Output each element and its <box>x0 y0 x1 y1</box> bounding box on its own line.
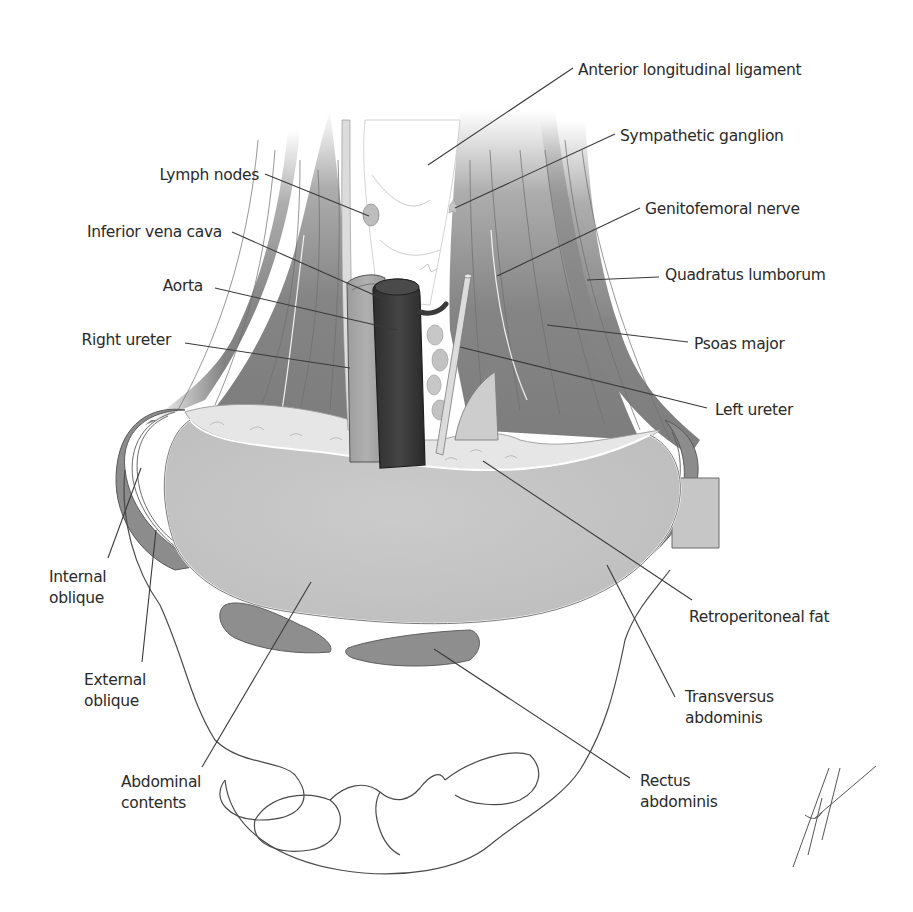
label-transversus-abdominis: Transversus <box>684 688 774 706</box>
label-external-oblique: External <box>84 671 146 689</box>
label-abdominal-contents: Abdominal <box>121 773 201 791</box>
pubic-edge <box>376 792 400 855</box>
artist-signature-icon <box>793 766 876 867</box>
label-transversus-abdominis-line2: abdominis <box>685 709 763 727</box>
label-inferior-vena-cava: Inferior vena cava <box>87 223 222 241</box>
label-external-oblique-line2: oblique <box>84 692 139 710</box>
label-internal-oblique-line2: oblique <box>49 589 104 607</box>
obturator-left <box>254 795 340 851</box>
label-left-ureter: Left ureter <box>715 401 794 419</box>
leader-rectus-abdominis <box>434 649 630 778</box>
label-retroperitoneal-fat: Retroperitoneal fat <box>689 608 829 626</box>
obturator-right <box>445 753 539 805</box>
label-quadratus-lumborum: Quadratus lumborum <box>665 266 826 284</box>
aorta <box>373 279 425 468</box>
label-internal-oblique: Internal <box>49 568 106 586</box>
label-genitofemoral-nerve: Genitofemoral nerve <box>645 200 800 218</box>
label-abdominal-contents-line2: contents <box>121 794 186 812</box>
label-psoas-major: Psoas major <box>694 335 786 353</box>
left-renal-vein <box>420 304 446 313</box>
label-aorta: Aorta <box>163 277 203 295</box>
anatomy-diagram: Anterior longitudinal ligament Sympathet… <box>0 0 913 912</box>
rectus-abdominis-right <box>346 630 480 666</box>
label-rectus-abdominis: Rectus <box>640 772 691 790</box>
label-lymph-nodes: Lymph nodes <box>159 166 259 184</box>
label-anterior-longitudinal-ligament: Anterior longitudinal ligament <box>578 61 802 79</box>
label-rectus-abdominis-line2: abdominis <box>640 793 718 811</box>
label-right-ureter: Right ureter <box>81 331 171 349</box>
sacrum <box>330 775 445 800</box>
label-sympathetic-ganglion: Sympathetic ganglion <box>620 127 784 145</box>
